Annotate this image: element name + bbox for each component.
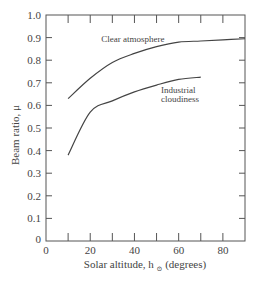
curve-annotation: cloudiness [161, 94, 199, 104]
plot-frame [46, 15, 245, 241]
y-axis-ticks: 00.10.20.30.40.50.60.70.80.91.0 [27, 9, 245, 245]
y-tick-label: 0.7 [27, 77, 41, 89]
x-axis-label: Solar altitude, h ⊙ (degrees) [84, 258, 207, 273]
y-tick-label: 0.3 [27, 167, 41, 179]
x-tick-label: 0 [43, 244, 49, 256]
y-tick-label: 0 [36, 233, 42, 245]
y-tick-label: 0.6 [27, 99, 41, 111]
y-tick-label: 0.2 [27, 190, 41, 202]
x-tick-label: 80 [217, 244, 229, 256]
curve-annotation: Clear atmosphere [101, 34, 164, 44]
x-tick-label: 60 [173, 244, 185, 256]
data-curves [68, 39, 245, 155]
curve-annotations: Clear atmosphereIndustrialcloudiness [101, 34, 199, 104]
y-tick-label: 0.4 [27, 145, 41, 157]
y-tick-label: 0.9 [27, 32, 41, 44]
y-tick-label: 0.5 [27, 122, 41, 134]
plot-border [46, 15, 245, 241]
beam-ratio-chart: 00.10.20.30.40.50.60.70.80.91.0 02040608… [0, 0, 256, 286]
clear-atmosphere-curve [68, 39, 245, 99]
x-tick-label: 20 [85, 244, 97, 256]
x-axis-ticks: 020406080 [43, 15, 229, 256]
y-tick-label: 0.1 [27, 212, 41, 224]
y-axis-label: Beam ratio, μ [9, 105, 21, 165]
x-tick-label: 40 [129, 244, 141, 256]
y-tick-label: 0.8 [27, 54, 41, 66]
y-tick-label: 1.0 [27, 9, 41, 21]
